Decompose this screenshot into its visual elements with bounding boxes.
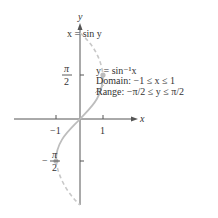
inverse-sine-diagram: y x −1 1 π 2 − π 2 x = sin y y = sin⁻¹x …	[0, 0, 218, 218]
tick-label-neg-sign: −	[42, 155, 48, 166]
range-text: Range: −π/2 ≤ y ≤ π/2	[96, 86, 184, 97]
tick-label-neg-den: 2	[52, 162, 57, 173]
x-axis-arrow-icon	[131, 117, 138, 122]
x-axis-label: x	[139, 113, 145, 124]
dashed-curve-lower	[56, 161, 80, 205]
tick-label-neg1: −1	[50, 125, 61, 136]
dashed-curve-label: x = sin y	[67, 28, 102, 39]
domain-text: Domain: −1 ≤ x ≤ 1	[96, 75, 175, 86]
y-axis-label: y	[77, 11, 83, 22]
tick-label-den: 2	[64, 76, 69, 87]
tick-label-pi-num: π	[64, 63, 70, 74]
tick-label-pos1: 1	[100, 125, 105, 136]
